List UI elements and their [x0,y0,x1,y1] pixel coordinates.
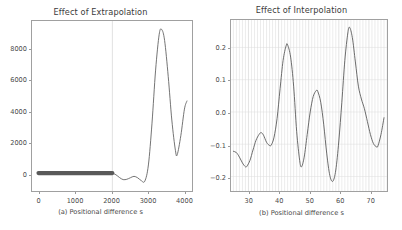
y-tick-label: 4000 [0,108,27,116]
x-tick-label: 4000 [176,197,193,205]
x-tick-label: 60 [336,197,344,205]
plot-area-interpolation [230,19,388,192]
x-tick-label: 0 [36,197,40,205]
plot-svg-extrapolation [32,21,192,191]
y-tick-label: 0.0 [201,109,226,117]
x-tick-mark [340,192,341,194]
y-tick-mark [29,112,31,113]
x-tick-mark [310,192,311,194]
y-tick-mark [228,113,230,114]
y-tick-mark [29,143,31,144]
extrapolation-curve [112,29,187,182]
y-tick-label: 2000 [0,139,27,147]
x-tick-mark [185,192,186,194]
chart-title-extrapolation: Effect of Extrapolation [0,7,201,17]
y-tick-mark [29,175,31,176]
y-tick-label: 8000 [0,45,27,53]
chart-panel-extrapolation: Effect of Extrapolation 0200040006000800… [0,0,201,230]
gridlines-vertical [233,20,387,191]
x-tick-label: 70 [366,197,374,205]
y-tick-label: 6000 [0,76,27,84]
x-tick-label: 3000 [140,197,157,205]
x-axis-label-interpolation: (b) Positional difference s [201,209,402,217]
y-tick-mark [29,80,31,81]
y-tick-mark [228,48,230,49]
x-tick-mark [279,192,280,194]
x-tick-label: 40 [275,197,283,205]
x-tick-mark [75,192,76,194]
y-tick-label: −0.2 [201,174,226,182]
y-tick-label: −0.1 [201,142,226,150]
x-tick-mark [249,192,250,194]
x-tick-label: 30 [244,197,252,205]
chart-panel-interpolation: Effect of Interpolation −0.2−0.10.00.10.… [201,0,402,230]
y-tick-mark [228,146,230,147]
plot-svg-interpolation [231,20,387,191]
x-tick-mark [371,192,372,194]
y-tick-mark [228,80,230,81]
chart-title-interpolation: Effect of Interpolation [201,5,402,15]
y-tick-mark [228,178,230,179]
x-tick-mark [39,192,40,194]
y-tick-label: 0 [0,171,27,179]
x-tick-label: 50 [305,197,313,205]
x-tick-label: 1000 [67,197,84,205]
figure-container: Effect of Extrapolation 0200040006000800… [0,0,402,230]
x-tick-mark [112,192,113,194]
x-axis-label-extrapolation: (a) Positional difference s [0,208,201,216]
x-tick-label: 2000 [103,197,120,205]
x-tick-mark [148,192,149,194]
plot-area-extrapolation [31,20,193,192]
y-tick-label: 0.1 [201,76,226,84]
y-tick-label: 0.2 [201,44,226,52]
y-tick-mark [29,49,31,50]
